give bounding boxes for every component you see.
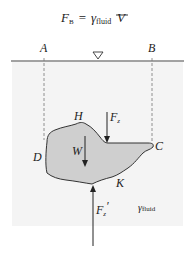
label-k: K (115, 176, 125, 190)
svg-text:FB=γfluid: FB=γfluid (60, 10, 111, 26)
label-gamma-fluid-sub: fluid (142, 205, 156, 213)
label-w: W (72, 144, 83, 158)
label-fz-prime-mark: ′ (106, 199, 109, 213)
formula-lhs-sub: B (69, 18, 74, 26)
label-h: H (73, 109, 84, 123)
label-d: D (32, 150, 42, 164)
free-surface-marker-icon (93, 52, 103, 59)
label-a: A (39, 41, 48, 55)
buoyancy-diagram: FB=γfluid V A B H C D W K Fz Fz′ γfluid (0, 0, 193, 253)
formula-gamma-sub: fluid (96, 17, 111, 26)
label-fz-sub: z (116, 117, 120, 125)
label-c: C (155, 139, 164, 153)
label-b: B (148, 41, 156, 55)
formula-equals: = (79, 10, 86, 25)
volume-symbol: V (117, 10, 127, 25)
volume-symbol-icon: V (116, 10, 128, 25)
